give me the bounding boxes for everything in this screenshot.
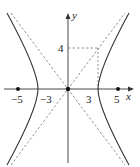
tick-label-neg5: −5 bbox=[11, 93, 23, 105]
y-axis-arrow-icon bbox=[66, 13, 71, 19]
hyperbola-diagram: −5 −3 3 5 x 4 y bbox=[0, 0, 140, 167]
tick-label-5: 5 bbox=[114, 93, 120, 105]
tick-label-neg3: −3 bbox=[40, 93, 52, 105]
x-axis-label: x bbox=[125, 90, 131, 102]
focus-left bbox=[16, 87, 20, 91]
tick-label-y4: 4 bbox=[58, 42, 64, 54]
y-axis-label: y bbox=[71, 9, 77, 21]
tick-label-3: 3 bbox=[86, 93, 92, 105]
origin-point bbox=[66, 87, 70, 91]
focus-right bbox=[116, 87, 120, 91]
